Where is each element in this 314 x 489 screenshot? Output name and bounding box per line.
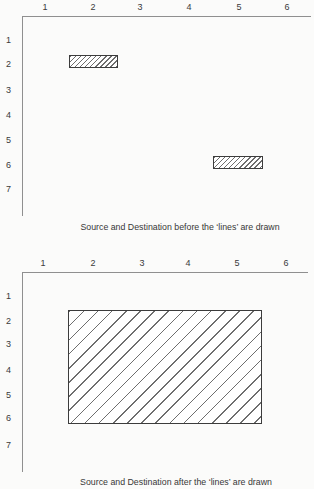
fig1-y-tick-label: 2 (1, 59, 16, 70)
fig1-x-tick-label: 2 (90, 2, 95, 13)
fig1-x-tick-label: 3 (137, 2, 142, 13)
fig2-caption: Source and Destination after the ‘lines’… (80, 477, 272, 488)
fig2-y-tick-label: 1 (1, 291, 16, 302)
fig1-x-tick-label: 5 (236, 2, 241, 13)
fig1-y-tick-label: 7 (1, 184, 16, 195)
fig2-y-tick-label: 7 (1, 440, 16, 451)
fig2-y-tick-label: 6 (1, 413, 16, 424)
fig1-y-tick-label: 4 (1, 110, 16, 121)
fig2-x-tick-label: 5 (234, 258, 239, 269)
fig1-y-axis (22, 16, 23, 216)
fig1-y-tick-label: 6 (1, 160, 16, 171)
fig1-x-tick-label: 4 (186, 2, 191, 13)
fig2-y-tick-label: 5 (1, 390, 16, 401)
fig1-x-axis (22, 16, 311, 17)
fig2-x-tick-label: 3 (139, 258, 144, 269)
fig2-x-tick-label: 1 (40, 258, 45, 269)
fig2-x-tick-label: 4 (185, 258, 190, 269)
fig1-y-tick-label: 5 (1, 135, 16, 146)
fig1-x-tick-label: 6 (284, 2, 289, 13)
merged-source-destination-block (68, 310, 262, 424)
fig1-y-tick-label: 1 (1, 35, 16, 46)
fig2-y-tick-label: 3 (1, 339, 16, 350)
fig1-x-tick-label: 1 (42, 2, 47, 13)
fig2-x-axis (22, 272, 308, 273)
fig1-y-tick-label: 3 (1, 85, 16, 96)
source-block (69, 55, 118, 68)
scanned-figure-page: 1 2 3 4 5 6 1 2 3 4 5 6 7 Source and Des… (0, 0, 314, 489)
fig2-y-axis (22, 272, 23, 472)
fig1-caption: Source and Destination before the ‘lines… (80, 222, 279, 233)
fig2-y-tick-label: 4 (1, 365, 16, 376)
fig2-x-tick-label: 6 (283, 258, 288, 269)
fig2-y-tick-label: 2 (1, 316, 16, 327)
destination-block (213, 156, 263, 169)
fig2-x-tick-label: 2 (90, 258, 95, 269)
